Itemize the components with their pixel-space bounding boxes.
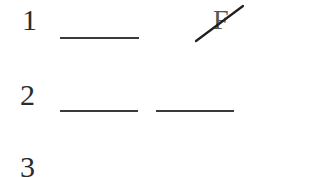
row-2-number: 2: [20, 80, 35, 110]
row-2-blank-1[interactable]: [60, 110, 138, 112]
row-3-number: 3: [20, 152, 35, 177]
row-2-blank-2[interactable]: [156, 110, 234, 112]
strikethrough-icon: [0, 0, 328, 177]
